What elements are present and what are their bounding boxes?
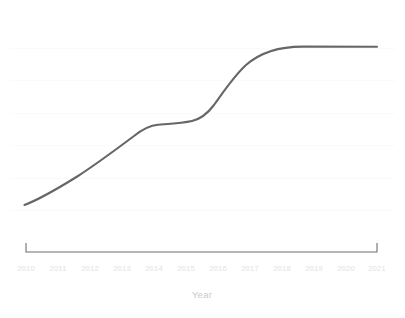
x-tick-label-2017: 2017: [241, 264, 259, 273]
x-tick-label-2018: 2018: [273, 264, 291, 273]
chart-canvas: 2010201120122013201420152016201720182019…: [0, 0, 405, 318]
x-tick-label-2015: 2015: [177, 264, 195, 273]
x-tick-label-2019: 2019: [305, 264, 323, 273]
line-chart-figure: 2010201120122013201420152016201720182019…: [0, 0, 405, 318]
x-tick-label-2021: 2021: [368, 264, 386, 273]
x-tick-label-2020: 2020: [337, 264, 355, 273]
x-axis-title: Year: [192, 289, 212, 300]
x-tick-label-2013: 2013: [113, 264, 131, 273]
x-tick-label-2016: 2016: [209, 264, 227, 273]
x-tick-label-2010: 2010: [17, 264, 35, 273]
x-tick-label-2012: 2012: [81, 264, 99, 273]
x-tick-label-2014: 2014: [145, 264, 163, 273]
x-tick-label-2011: 2011: [49, 264, 66, 273]
